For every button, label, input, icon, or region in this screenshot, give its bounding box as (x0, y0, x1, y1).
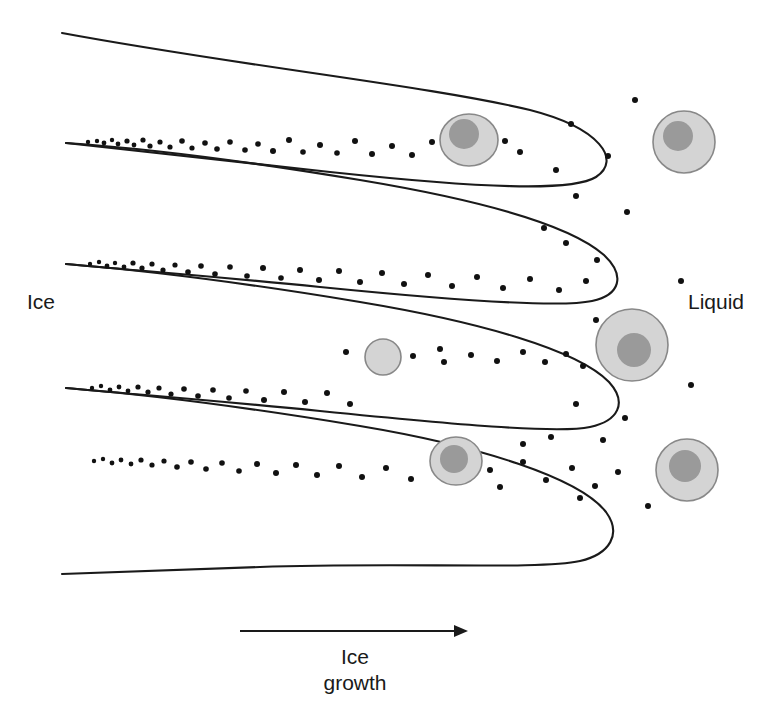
cell-shrunken-middle (365, 339, 401, 375)
solute-dot (99, 384, 103, 388)
ice-growth-arrow (240, 625, 468, 637)
solute-dot (270, 148, 276, 154)
solute-dot (441, 359, 447, 365)
solute-dot (688, 382, 694, 388)
solute-dot (129, 462, 134, 467)
arrow-head (454, 625, 468, 637)
solute-dot (541, 225, 547, 231)
solute-dot (97, 260, 101, 264)
solute-dot (172, 262, 177, 267)
solute-dot (101, 457, 105, 461)
solute-dot (260, 265, 266, 271)
solute-dot (543, 477, 549, 483)
solute-dot (243, 388, 249, 394)
solute-dot (124, 138, 129, 143)
cell-nucleus (663, 121, 693, 151)
cell-trapped-upper (440, 114, 498, 166)
solute-dot (500, 285, 506, 291)
solute-dot (161, 458, 166, 463)
solute-dot (593, 317, 599, 323)
solute-dot (113, 261, 117, 265)
solute-dot (520, 441, 526, 447)
solute-dot (352, 138, 358, 144)
cell-nucleus (449, 119, 479, 149)
solute-dot (236, 468, 242, 474)
solute-dot (185, 269, 191, 275)
solute-dot (227, 139, 233, 145)
figure-canvas: Ice Liquid Ice growth (0, 0, 775, 722)
cell-liquid-middle-right (596, 309, 668, 381)
solute-dot (302, 399, 308, 405)
solute-dot (110, 461, 115, 466)
solute-dot (119, 458, 124, 463)
cell-liquid-lower-right (656, 439, 718, 501)
solute-dot (149, 261, 154, 266)
solute-dot (592, 483, 598, 489)
solute-dot (108, 388, 113, 393)
solute-dot (425, 272, 431, 278)
solute-dot (138, 457, 143, 462)
solute-dot (359, 474, 365, 480)
solute-dot (255, 141, 261, 147)
solute-dot (577, 495, 583, 501)
solute-dot (520, 349, 526, 355)
solute-dot (156, 385, 161, 390)
cell-trapped-lower (430, 437, 482, 485)
solute-dot (474, 274, 480, 280)
solute-dot (140, 137, 145, 142)
solute-dot (254, 461, 260, 467)
solute-dot (449, 283, 455, 289)
solute-dot (624, 209, 630, 215)
solute-dot (408, 476, 414, 482)
solute-dot (401, 281, 407, 287)
solute-dot (556, 287, 562, 293)
dendrite-curve-4 (62, 388, 613, 574)
solute-dot (583, 278, 589, 284)
dendrite-curves-group (62, 33, 619, 574)
solute-dot (105, 264, 110, 269)
solute-dot (273, 470, 279, 476)
solute-dot (324, 390, 330, 396)
solute-dot (174, 464, 180, 470)
solute-dot (188, 459, 194, 465)
solute-dot (167, 144, 172, 149)
ice-growth-caption: Ice growth (240, 644, 470, 695)
solute-dot (314, 472, 320, 478)
cell-nucleus (669, 450, 701, 482)
solute-dot (563, 240, 569, 246)
solute-dot (573, 193, 579, 199)
solute-dot (594, 257, 600, 263)
solute-dot (122, 265, 127, 270)
solute-dot (110, 138, 114, 142)
solute-dot (334, 150, 340, 156)
cells-group (365, 111, 718, 501)
solute-dot (548, 434, 554, 440)
solute-dot (189, 145, 194, 150)
solute-dot (181, 386, 187, 392)
solute-dot (410, 353, 416, 359)
solute-dot (132, 143, 137, 148)
solute-dot (86, 140, 90, 144)
solute-dot (278, 275, 284, 281)
solute-dot (563, 351, 569, 357)
solute-dot (139, 265, 144, 270)
growth-caption-line-1: Ice (240, 644, 470, 670)
solute-dot (281, 389, 287, 395)
solute-dot (226, 395, 232, 401)
solute-dot (622, 415, 628, 421)
solute-dot (553, 167, 559, 173)
solute-dot (300, 149, 306, 155)
solute-dot (157, 139, 162, 144)
solute-dot (336, 463, 342, 469)
solute-dot (261, 397, 267, 403)
solute-dot (242, 147, 248, 153)
solute-dot (409, 152, 415, 158)
solute-dot (517, 149, 523, 155)
solute-dot (316, 277, 322, 283)
solute-dot (487, 467, 493, 473)
solute-dot (168, 391, 173, 396)
solute-dot (573, 401, 579, 407)
solute-dot (210, 387, 216, 393)
dendrite-curve-2 (66, 143, 617, 304)
solute-dot (212, 271, 218, 277)
